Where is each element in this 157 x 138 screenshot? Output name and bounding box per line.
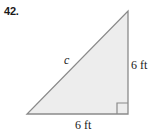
figure-page: 42. c 6 ft 6 ft: [0, 0, 157, 138]
horizontal-leg-label: 6 ft: [75, 119, 91, 132]
triangle-shape: [27, 11, 128, 114]
hypotenuse-label: c: [64, 54, 69, 67]
vertical-leg-label: 6 ft: [131, 59, 147, 72]
